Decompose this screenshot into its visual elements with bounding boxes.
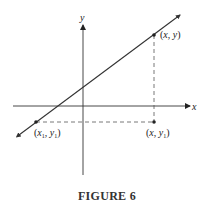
figure-caption: FIGURE 6 xyxy=(0,189,214,204)
label-x-y1: (x, y1) xyxy=(146,127,170,139)
y-axis-label: y xyxy=(79,12,85,23)
coordinate-plane: x y (x, y) (x1, y1) (x, y1) xyxy=(0,0,214,205)
straight-line xyxy=(19,15,180,135)
point-x-y xyxy=(152,33,156,37)
point-x-y1 xyxy=(152,120,156,124)
x-axis-label: x xyxy=(191,101,197,112)
label-x1-y1: (x1, y1) xyxy=(34,127,61,139)
label-x-y: (x, y) xyxy=(160,29,181,41)
point-x1-y1 xyxy=(34,120,38,124)
figure-6: x y (x, y) (x1, y1) (x, y1) FIGURE 6 xyxy=(0,0,214,205)
